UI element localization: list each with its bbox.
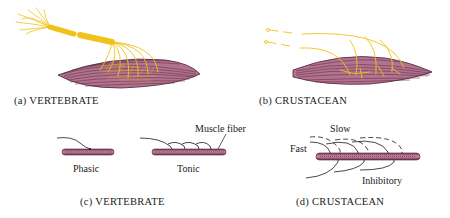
crustacean-fiber-d <box>316 153 420 160</box>
vertebrate-muscle-a <box>58 59 200 88</box>
caption-d: (d) CRUSTACEAN <box>296 196 384 207</box>
fast-axon <box>310 141 388 153</box>
label-fast: Fast <box>290 143 307 154</box>
phasic-fiber <box>62 149 114 155</box>
label-inhibitory: Inhibitory <box>362 175 402 186</box>
caption-c: (c) VERTEBRATE <box>80 196 165 207</box>
caption-a: (a) VERTEBRATE <box>14 95 99 106</box>
caption-b: (b) CRUSTACEAN <box>259 95 347 106</box>
phasic-axon <box>57 138 90 149</box>
muscle-fiber-leader-line <box>218 134 226 149</box>
label-phasic: Phasic <box>73 163 99 174</box>
label-slow: Slow <box>330 123 351 134</box>
tonic-fiber <box>152 149 226 155</box>
crustacean-muscle-b <box>293 57 432 85</box>
label-tonic: Tonic <box>177 163 200 174</box>
label-muscle-fiber: Muscle fiber <box>195 123 246 134</box>
tonic-axon <box>140 138 211 149</box>
